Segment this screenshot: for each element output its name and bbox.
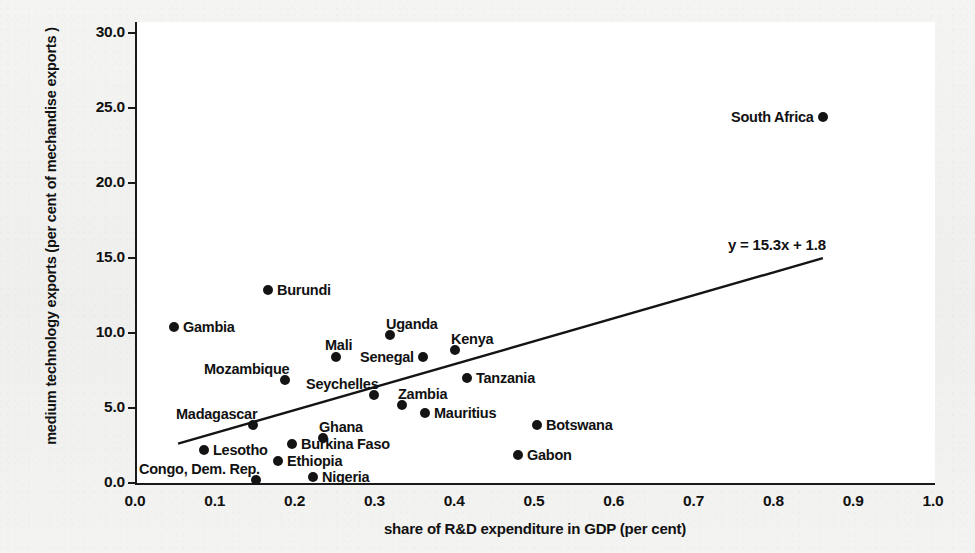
data-point	[513, 450, 523, 460]
x-tick-label: 0.3	[351, 492, 397, 510]
data-point-label: Mauritius	[434, 405, 496, 421]
x-tick-label: 0.6	[591, 492, 637, 510]
y-tick-mark	[128, 182, 136, 184]
x-tick-label: 0.5	[511, 492, 557, 510]
y-tick-mark	[128, 482, 136, 484]
x-tick-label: 0.8	[750, 492, 796, 510]
data-point	[818, 112, 828, 122]
y-tick-mark	[128, 32, 136, 34]
y-axis-line	[135, 22, 137, 484]
data-point-label: Senegal	[360, 349, 414, 365]
data-point	[199, 445, 209, 455]
x-tick-label: 0.7	[671, 492, 717, 510]
data-point-label: Nigeria	[322, 469, 369, 485]
data-point-label: Tanzania	[476, 370, 535, 386]
data-point	[420, 408, 430, 418]
y-tick-label: 20.0	[73, 173, 125, 191]
x-tick-label: 0.2	[272, 492, 318, 510]
data-point	[263, 285, 273, 295]
x-tick-label: 0.0	[112, 492, 158, 510]
data-point	[308, 472, 318, 482]
data-point-label: Kenya	[451, 331, 493, 347]
data-point-label: Uganda	[386, 316, 438, 332]
y-tick-label: 0.0	[73, 473, 125, 491]
y-tick-label: 25.0	[73, 98, 125, 116]
data-point-label: Zambia	[398, 386, 447, 402]
data-point-label: Lesotho	[213, 442, 268, 458]
x-tick-label: 0.9	[830, 492, 876, 510]
trendline-equation-label: y = 15.3x + 1.8	[728, 236, 826, 253]
data-point	[273, 456, 283, 466]
data-point-label: Mozambique	[204, 361, 289, 377]
y-tick-label: 10.0	[73, 323, 125, 341]
y-tick-label: 15.0	[73, 248, 125, 266]
data-point-label: Ghana	[319, 419, 363, 435]
x-axis-title: share of R&D expenditure in GDP (per cen…	[135, 520, 935, 537]
data-point-label: Burkina Faso	[301, 436, 390, 452]
data-point-label: Mali	[325, 337, 352, 353]
data-point-label: Madagascar	[176, 406, 257, 422]
y-tick-mark	[128, 407, 136, 409]
data-point-label: Botswana	[546, 417, 613, 433]
data-point	[532, 420, 542, 430]
y-tick-mark	[128, 107, 136, 109]
y-axis-title: medium technology exports (per cent of m…	[43, 1, 59, 471]
x-tick-label: 1.0	[910, 492, 956, 510]
y-tick-mark	[128, 257, 136, 259]
data-point	[462, 373, 472, 383]
y-tick-label: 5.0	[73, 398, 125, 416]
y-tick-mark	[128, 332, 136, 334]
chart-figure: 30.025.020.015.010.05.00.0 0.00.10.20.30…	[0, 0, 975, 553]
data-point-label: Gabon	[527, 447, 572, 463]
data-point-label: Gambia	[183, 319, 235, 335]
data-point-label: Seychelles	[306, 376, 378, 392]
y-tick-label: 30.0	[73, 23, 125, 41]
data-point-label: Burundi	[277, 282, 331, 298]
data-point-label: South Africa	[731, 109, 814, 125]
x-tick-label: 0.4	[431, 492, 477, 510]
data-point-label: Ethiopia	[287, 453, 342, 469]
data-point-label: Congo, Dem. Rep.	[139, 461, 260, 477]
x-tick-label: 0.1	[192, 492, 238, 510]
data-point	[418, 352, 428, 362]
